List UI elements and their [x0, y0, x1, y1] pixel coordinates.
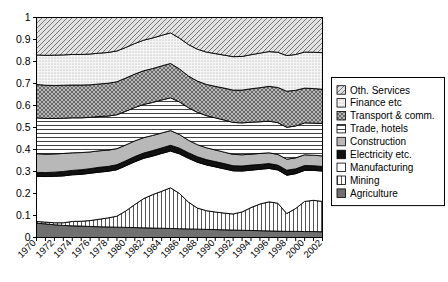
stacked-area-chart-figure: 00.10.20.30.40.50.60.70.80.91 1970197219…	[0, 0, 448, 282]
legend-label-agriculture: Agriculture	[350, 188, 398, 199]
legend-label-finance-etc: Finance etc	[350, 97, 402, 108]
legend-swatch-oth-services	[337, 86, 346, 95]
y-tick-label: 0.9	[16, 33, 31, 45]
legend-label-construction: Construction	[350, 136, 406, 147]
chart-legend: Oth. ServicesFinance etcTransport & comm…	[332, 78, 445, 206]
legend-label-electricity-etc: Electricity etc.	[350, 149, 412, 160]
stacked-area-bands	[37, 18, 323, 238]
legend-swatch-transport-comm	[337, 112, 346, 121]
y-tick-label: 0.6	[16, 99, 31, 111]
y-tick-label: 0.7	[16, 77, 31, 89]
legend-item-transport-comm: Transport & comm.	[337, 110, 435, 121]
legend-swatch-electricity-etc	[337, 150, 346, 159]
y-tick-label: 0.1	[16, 209, 31, 221]
legend-label-manufacturing: Manufacturing	[350, 162, 413, 173]
legend-label-trade-hotels: Trade, hotels	[350, 123, 408, 134]
y-axis: 00.10.20.30.40.50.60.70.80.91	[16, 11, 37, 243]
legend-swatch-mining	[337, 176, 346, 185]
legend-swatch-construction	[337, 137, 346, 146]
legend-label-transport-comm: Transport & comm.	[350, 110, 435, 121]
x-tick-label: 1970	[15, 237, 38, 260]
legend-item-mining: Mining	[337, 175, 379, 186]
y-tick-label: 0.2	[16, 187, 31, 199]
y-tick-label: 0.4	[16, 143, 31, 155]
chart-canvas: 00.10.20.30.40.50.60.70.80.91 1970197219…	[0, 0, 448, 282]
legend-swatch-agriculture	[337, 189, 346, 198]
legend-label-oth-services: Oth. Services	[350, 85, 410, 96]
y-tick-label: 1	[25, 11, 31, 23]
legend-swatch-finance-etc	[337, 99, 346, 108]
legend-label-mining: Mining	[350, 175, 379, 186]
legend-swatch-manufacturing	[337, 163, 346, 172]
x-axis: 1970197219741976197819801982198419861988…	[15, 237, 324, 260]
y-tick-label: 0.8	[16, 55, 31, 67]
legend-swatch-trade-hotels	[337, 124, 346, 132]
y-tick-label: 0.3	[16, 165, 31, 177]
y-tick-label: 0.5	[16, 121, 31, 133]
